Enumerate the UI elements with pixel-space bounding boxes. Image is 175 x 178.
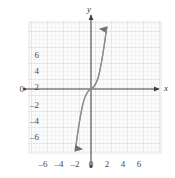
x-axis-label: x (164, 84, 168, 93)
y-tick-label-4: 4 (29, 67, 39, 76)
x-tick-label-neg2: –2 (68, 160, 82, 169)
grid-background (28, 21, 161, 153)
x-tick-label-4: 4 (118, 160, 128, 169)
graph-figure: 6 4 2 0 –2 –4 –6 –6 –4 –2 0 2 4 6 x y (0, 0, 175, 178)
x-tick-label-6: 6 (134, 160, 144, 169)
coordinate-plane (0, 0, 175, 178)
x-tick-label-neg4: –4 (52, 160, 66, 169)
x-tick-label-neg6: –6 (36, 160, 50, 169)
y-tick-label-6: 6 (29, 51, 39, 60)
y-axis-label: y (87, 5, 91, 14)
y-tick-label-0: 0 (14, 85, 24, 94)
y-tick-label-neg6: –6 (25, 133, 39, 142)
x-tick-label-2: 2 (102, 160, 112, 169)
y-tick-label-2: 2 (29, 83, 39, 92)
y-tick-label-neg2: –2 (25, 101, 39, 110)
y-tick-label-neg4: –4 (25, 117, 39, 126)
x-tick-label-0: 0 (86, 160, 96, 169)
